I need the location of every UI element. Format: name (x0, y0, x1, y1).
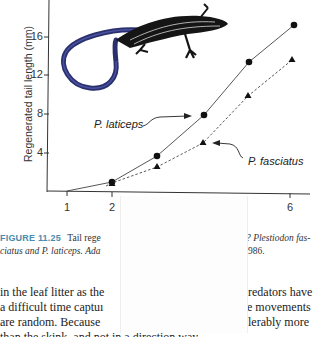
body-line-3-right: lerably more (248, 315, 309, 331)
figure-number: FIGURE 11.25 (0, 233, 61, 243)
x-tick-2: 2 (105, 201, 119, 213)
label-fasciatus: P. fasciatus (248, 155, 303, 167)
label-laticeps: P. laticeps (94, 118, 143, 130)
body-line-2-right: e movements (247, 300, 311, 316)
chart-plot (0, 0, 319, 215)
lizard-illustration (63, 4, 228, 88)
body-line-1-left: in the leaf litter as the (0, 285, 104, 301)
y-tick-8: 8 (25, 107, 43, 119)
caption-text-right-1: ? Plestiodon fas- (246, 231, 310, 245)
body-line-3-left: are random. Because (0, 315, 100, 331)
caption-text-left-2: ciatus and P. laticeps. Ada (0, 244, 100, 258)
caption-text-right-2: 986. (248, 244, 265, 258)
body-line-2-left: a difficult time captuı (0, 300, 103, 316)
blank-overlay (120, 196, 248, 333)
body-line-1-right: redators have (248, 285, 312, 301)
x-tick-6: 6 (283, 201, 297, 213)
x-tick-1: 1 (60, 201, 74, 213)
caption-text-left-1: Tail rege (67, 233, 100, 243)
y-tick-4: 4 (25, 146, 43, 158)
figure-chart: Regenerated tail length (mm) 16 12 8 4 1… (0, 0, 319, 215)
y-tick-16: 16 (25, 30, 43, 42)
y-tick-12: 12 (25, 68, 43, 80)
